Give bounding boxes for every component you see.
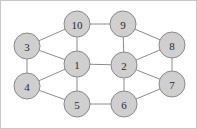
graph-edge-4-5	[39, 90, 65, 99]
graph-edge-3-10	[39, 29, 65, 41]
graph-edge-8-2	[136, 50, 160, 60]
graph-edge-2-7	[136, 70, 160, 79]
graph-edge-4-1	[39, 69, 65, 81]
edge-layer	[27, 24, 172, 104]
graph-node-6: 6	[111, 91, 137, 117]
graph-edge-9-8	[135, 29, 160, 40]
graph-node-circle-8	[159, 32, 185, 58]
graph-node-circle-5	[64, 91, 90, 117]
graph-canvas: 12345678910	[1, 1, 196, 128]
graph-node-circle-2	[111, 52, 137, 78]
graph-node-10: 10	[64, 11, 90, 37]
graph-node-2: 2	[111, 52, 137, 78]
graph-node-8: 8	[159, 32, 185, 58]
graph-figure-frame: 12345678910	[0, 0, 197, 129]
graph-edge-6-7	[136, 89, 160, 99]
graph-edge-3-1	[39, 50, 65, 59]
graph-node-5: 5	[64, 91, 90, 117]
graph-node-7: 7	[159, 71, 185, 97]
graph-node-4: 4	[14, 73, 40, 99]
graph-node-circle-10	[64, 11, 90, 37]
graph-node-1: 1	[64, 51, 90, 77]
graph-node-circle-3	[14, 33, 40, 59]
graph-node-3: 3	[14, 33, 40, 59]
graph-node-circle-1	[64, 51, 90, 77]
graph-node-circle-6	[111, 91, 137, 117]
graph-node-circle-9	[110, 11, 136, 37]
graph-node-9: 9	[110, 11, 136, 37]
graph-node-circle-7	[159, 71, 185, 97]
graph-node-circle-4	[14, 73, 40, 99]
